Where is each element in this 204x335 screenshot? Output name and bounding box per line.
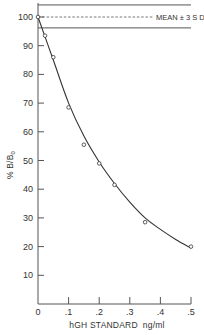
y-tick-label: 100 [18,12,33,22]
fit-curve [38,17,191,248]
y-tick-label: 70 [23,98,33,108]
fit-curve-path [38,17,191,248]
data-point-marker [36,15,40,19]
y-tick-label: 40 [23,184,33,194]
data-point-marker [67,106,71,110]
data-point-marker [97,162,101,166]
y-tick-label: 80 [23,69,33,79]
y-axis-title-main: % B/B [5,154,15,179]
data-point-marker [143,220,147,224]
x-axis-title: hGH STANDARD ng/ml [69,320,164,330]
y-tick-label: 30 [23,213,33,223]
svg-text:% B/B0: % B/B0 [5,150,16,179]
x-tick-label: .2 [95,307,103,317]
y-tick-label: 20 [23,242,33,252]
data-point-marker [189,245,193,249]
data-points [36,15,193,248]
y-tick-label: 90 [23,41,33,51]
x-tick-label: .1 [65,307,73,317]
x-tick-label: .5 [187,307,195,317]
y-tick-label: 50 [23,156,33,166]
x-tick-label: .3 [126,307,134,317]
x-tick-label: .4 [157,307,165,317]
y-axis-title-subscript: 0 [10,150,16,154]
y-tick-label: 60 [23,127,33,137]
data-point-marker [43,34,47,38]
y-axis-title: % B/B0 [5,150,16,179]
data-point-marker [52,55,56,59]
y-tick-label: 10 [23,270,33,280]
x-tick-label: 0 [35,307,40,317]
data-point-marker [113,183,117,187]
standard-curve-chart: 1020304050607080901000.1.2.3.4.5 MEAN ± … [0,0,204,335]
band-label: MEAN ± 3 S D [156,13,204,22]
axes: 1020304050607080901000.1.2.3.4.5 [18,3,195,317]
data-point-marker [82,143,86,147]
